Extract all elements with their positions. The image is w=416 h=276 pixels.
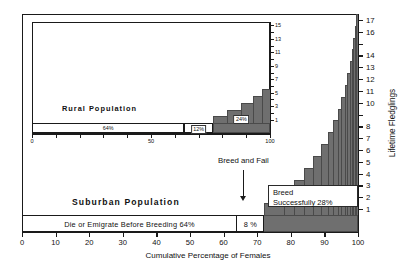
inset-y-tick (270, 52, 274, 53)
inset-x-tick (56, 134, 57, 138)
y-tick-label: 6 (366, 145, 370, 154)
y-tick-label: 11 (366, 86, 374, 95)
x-tick (22, 232, 23, 237)
x-tick (257, 232, 258, 237)
y-tick-label: 1 (366, 205, 370, 214)
x-tick (190, 232, 191, 237)
rural-population-label: Rural Population (62, 104, 137, 113)
x-tick (291, 232, 292, 237)
y-tick (358, 91, 363, 92)
breed-and-fail-annotation: Breed and Fail (218, 156, 269, 165)
x-tick-label: 60 (219, 238, 227, 247)
inset-x-tick-label: 50 (148, 138, 154, 144)
y-tick-label: 17 (366, 15, 375, 24)
inset-y-tick (270, 93, 274, 94)
breed-successfully-callout: Breed Successfully 28% (268, 185, 358, 207)
y-tick (358, 44, 363, 45)
inset-y-tick-label: 11 (275, 49, 281, 55)
x-tick-label: 0 (20, 238, 24, 247)
inset-y-tick-label: 7 (275, 76, 278, 82)
y-tick-label: 14 (366, 51, 375, 60)
callout-line-1: Breed (273, 188, 353, 198)
x-tick-label: 70 (253, 238, 261, 247)
inset-y-tick-label: 1 (275, 117, 278, 123)
x-tick (56, 232, 57, 237)
inset-y-tick (270, 59, 274, 60)
y-tick-label: 8 (366, 122, 370, 131)
y-tick (358, 55, 363, 56)
x-tick (324, 232, 325, 237)
inset-x-tick (199, 134, 200, 138)
inset-y-tick (270, 106, 274, 107)
y-axis-line (358, 14, 359, 232)
y-tick-label: 7 (366, 134, 370, 143)
y-tick (358, 115, 363, 116)
figure-canvas: Die or Emigrate Before Breeding 64%8 % S… (0, 0, 416, 276)
inset-bar-segment-label: 24% (234, 115, 250, 124)
x-tick-label: 20 (85, 238, 93, 247)
y-axis-title: Lifetime Fledglings (388, 89, 397, 157)
inset-y-tick (270, 32, 274, 33)
inset-y-tick-label: 13 (275, 36, 281, 42)
inset-x-tick (32, 134, 33, 138)
y-tick (358, 162, 363, 163)
inset-x-tick-label: 0 (30, 138, 33, 144)
x-tick-label: 90 (320, 238, 328, 247)
inset-bar-segment (213, 123, 270, 133)
x-tick (224, 232, 225, 237)
callout-line-2: Successfully 28% (273, 198, 353, 208)
inset-y-tick (270, 120, 274, 121)
inset-y-tick (270, 113, 274, 114)
inset-y-tick (270, 25, 274, 26)
breed-and-fail-arrow-head (240, 196, 246, 201)
y-tick (358, 79, 363, 80)
y-tick-label: 12 (366, 75, 375, 84)
breed-and-fail-arrow-line (243, 170, 244, 197)
bar-segment-label: Die or Emigrate Before Breeding 64% (64, 220, 195, 229)
x-axis-title: Cumulative Percentage of Females (0, 251, 416, 260)
y-tick (358, 174, 363, 175)
bar-segment (264, 215, 358, 232)
x-tick-label: 10 (51, 238, 59, 247)
inset-x-tick-label: 100 (265, 138, 274, 144)
inset-y-tick (270, 39, 274, 40)
x-tick-label: 40 (152, 238, 160, 247)
inset-bar-segment-label: 64% (101, 125, 115, 132)
inset-y-tick (270, 73, 274, 74)
inset-y-tick (270, 46, 274, 47)
suburban-population-label: Suburban Population (72, 197, 180, 207)
inset-y-tick (270, 86, 274, 87)
inset-x-tick (127, 134, 128, 138)
x-tick-label: 100 (352, 238, 365, 247)
inset-y-tick-label: 15 (275, 22, 281, 28)
x-tick (89, 232, 90, 237)
y-tick-label: 2 (366, 193, 370, 202)
y-tick-label: 13 (366, 63, 375, 72)
inset-x-tick (270, 134, 271, 138)
x-tick-label: 50 (186, 238, 194, 247)
y-tick (358, 150, 363, 151)
y-tick-label: 10 (366, 98, 375, 107)
inset-bar-segment-label: 12% (191, 125, 207, 134)
x-tick (123, 232, 124, 237)
y-tick-label: 5 (366, 157, 370, 166)
inset-staircase-step (262, 89, 270, 123)
y-tick (358, 32, 363, 33)
y-tick-label: 3 (366, 181, 370, 190)
inset-x-tick (151, 134, 152, 138)
inset-y-tick (270, 99, 274, 100)
y-tick (358, 103, 363, 104)
y-tick (358, 20, 363, 21)
inset-y-tick (270, 66, 274, 67)
inset-y-tick-label: 9 (275, 63, 278, 69)
inset-x-tick (222, 134, 223, 138)
y-tick (358, 185, 363, 186)
y-tick (358, 67, 363, 68)
inset-x-tick (80, 134, 81, 138)
x-tick (358, 232, 359, 237)
y-tick (358, 138, 363, 139)
inset-x-tick (103, 134, 104, 138)
y-tick (358, 126, 363, 127)
inset-y-tick (270, 79, 274, 80)
inset-x-tick (175, 134, 176, 138)
